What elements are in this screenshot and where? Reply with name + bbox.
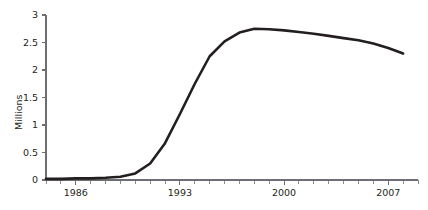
data-series-group [46, 29, 403, 179]
y-tick-label: 2.5 [23, 37, 38, 48]
y-axis-tick-labels: 00.511.522.53 [23, 9, 38, 185]
y-axis-ticks [42, 15, 46, 180]
x-tick-label: 2007 [376, 187, 400, 198]
y-tick-label: 3 [32, 9, 38, 20]
y-tick-label: 0 [32, 174, 38, 185]
x-tick-label: 2000 [272, 187, 296, 198]
series-line [46, 29, 403, 179]
line-chart: Millions 00.511.522.53 1986199320002007 [0, 0, 428, 210]
x-tick-label: 1986 [64, 187, 88, 198]
y-tick-label: 2 [32, 64, 38, 75]
y-tick-label: 1 [32, 119, 38, 130]
chart-plot-area: 00.511.522.53 1986199320002007 [0, 0, 428, 210]
y-tick-label: 0.5 [23, 147, 38, 158]
x-tick-label: 1993 [168, 187, 192, 198]
x-axis-tick-labels: 1986199320002007 [64, 187, 401, 198]
x-axis-ticks [46, 180, 418, 185]
y-tick-label: 1.5 [23, 92, 38, 103]
